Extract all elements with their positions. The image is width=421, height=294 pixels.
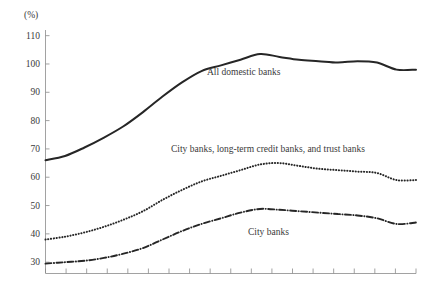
- series-label-city-banks: City banks: [248, 227, 289, 237]
- y-axis-tick-label: 30: [31, 257, 41, 267]
- y-axis-tick-label: 50: [31, 201, 41, 211]
- series-label-city-longterm-trust-banks: City banks, long-term credit banks, and …: [171, 144, 365, 154]
- y-axis-tick-label: 60: [31, 172, 41, 182]
- series-label-all-domestic-banks: All domestic banks: [207, 67, 281, 77]
- y-axis-tick-label: 110: [26, 31, 40, 41]
- y-axis-unit-label: (%): [24, 10, 38, 21]
- y-axis-tick-label: 80: [31, 116, 41, 126]
- y-axis-tick-label: 40: [31, 229, 41, 239]
- y-axis-tick-label: 90: [31, 87, 41, 97]
- y-axis-tick-label: 100: [26, 59, 41, 69]
- chart-canvas: (%) 11010090807060504030 All domestic ba…: [0, 0, 421, 294]
- y-axis-tick-label: 70: [31, 144, 41, 154]
- line-chart: (%) 11010090807060504030 All domestic ba…: [0, 0, 421, 294]
